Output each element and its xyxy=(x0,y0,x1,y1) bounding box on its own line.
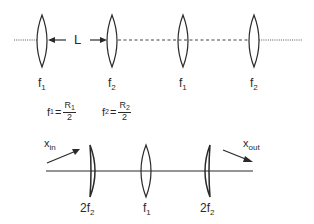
lens-f1-a xyxy=(37,15,47,67)
bottom-lens-label-3: 2f2 xyxy=(200,202,214,219)
bottom-lens-label-1: 2f2 xyxy=(80,202,94,219)
lens-label-2: f2 xyxy=(108,77,116,94)
arrowhead-right-icon xyxy=(100,37,107,43)
output-arrowhead-icon xyxy=(243,156,253,162)
gap-label-L: L xyxy=(74,34,81,46)
arrowhead-left-icon xyxy=(48,37,55,43)
lens-f1-b xyxy=(178,15,188,67)
input-label: xin xyxy=(44,137,56,154)
lens-f2-a xyxy=(107,15,117,67)
bottom-lens-label-2: f1 xyxy=(143,202,151,219)
lens-f2-b xyxy=(249,15,259,67)
formula-f1: f1= R12 xyxy=(47,101,76,122)
output-label: xout xyxy=(243,137,260,154)
lens-label-1: f1 xyxy=(38,77,46,94)
gap-label-text: L xyxy=(74,32,81,47)
lens-label-4: f2 xyxy=(250,77,258,94)
formula-f2: f2= R22 xyxy=(102,101,131,122)
lens-label-3: f1 xyxy=(179,77,187,94)
